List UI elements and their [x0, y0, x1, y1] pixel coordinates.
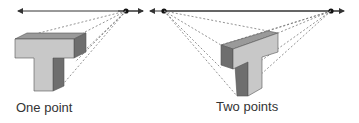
one-point-label: One point [16, 100, 72, 115]
one-point-diagram [15, 8, 143, 91]
two-point-diagram [150, 8, 344, 96]
two-points-label: Two points [216, 99, 278, 114]
perspective-diagram: One point Two points [0, 0, 359, 123]
t-shape-one-point [15, 39, 74, 91]
